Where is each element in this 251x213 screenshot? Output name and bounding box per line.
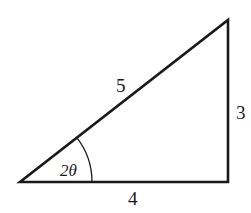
right-triangle (20, 20, 228, 182)
angle-arc (77, 138, 92, 182)
adjacent-side-label: 4 (128, 188, 138, 209)
triangle-diagram: 5 3 4 2θ (0, 0, 251, 213)
angle-label: 2θ (60, 161, 77, 180)
hypotenuse-label: 5 (116, 75, 126, 96)
opposite-side-label: 3 (236, 102, 246, 123)
